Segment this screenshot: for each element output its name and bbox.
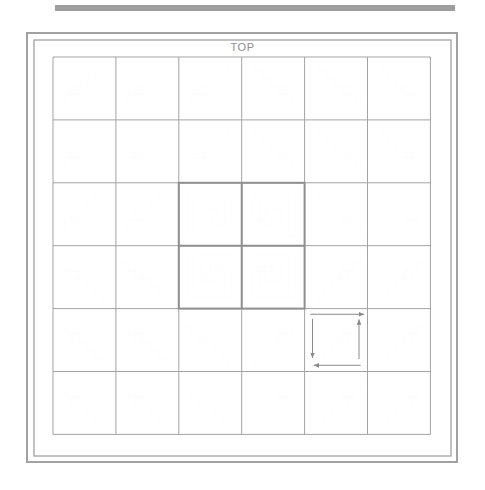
- center-spiral-tile: [188, 194, 231, 236]
- staircase-tile-path: [381, 389, 424, 428]
- staircase-tile-path: [122, 126, 165, 165]
- staircase-tile: [318, 189, 361, 228]
- staircase-tile: [185, 63, 228, 102]
- staircase-tile: [59, 189, 102, 228]
- staircase-tile: [381, 126, 424, 165]
- staircase-tile-path: [59, 126, 102, 165]
- staircase-tile: [59, 326, 102, 365]
- staircase-tile: [122, 263, 165, 302]
- staircase-tile: [59, 389, 102, 428]
- diagram-canvas: TOP: [0, 0, 485, 490]
- staircase-tile-path: [185, 63, 228, 102]
- staircase-tile-path: [318, 263, 361, 302]
- staircase-tile-path: [122, 63, 165, 102]
- staircase-tile-path: [318, 126, 361, 165]
- staircase-tile: [255, 126, 298, 165]
- staircase-tile: [381, 389, 424, 428]
- top-label: TOP: [0, 41, 485, 53]
- staircase-tile: [59, 126, 102, 165]
- staircase-tile: [318, 126, 361, 165]
- staircase-tile: [185, 326, 228, 365]
- staircase-tile: [255, 63, 298, 102]
- center-spiral-tile-path: [188, 255, 231, 297]
- staircase-tile-path: [59, 326, 102, 365]
- staircase-tile: [185, 389, 228, 428]
- center-spiral-tile: [188, 255, 231, 297]
- staircase-tile-path: [122, 189, 165, 228]
- staircase-tile: [59, 263, 102, 302]
- staircase-tile: [318, 63, 361, 102]
- staircase-tile: [318, 326, 361, 365]
- staircase-tile: [381, 63, 424, 102]
- center-spiral-tile-path: [252, 194, 295, 236]
- staircase-tile-path: [318, 63, 361, 102]
- staircase-tile-path: [59, 189, 102, 228]
- staircase-tile-path: [59, 389, 102, 428]
- staircase-tile: [381, 189, 424, 228]
- staircase-tile-path: [122, 263, 165, 302]
- staircase-tile: [255, 326, 298, 365]
- staircase-tile: [255, 389, 298, 428]
- staircase-tile-path: [59, 263, 102, 302]
- staircase-tile: [122, 126, 165, 165]
- staircase-tile-path: [255, 326, 298, 365]
- staircase-tile: [381, 326, 424, 365]
- staircase-tile-path: [122, 389, 165, 428]
- center-spiral-tile-path: [252, 255, 295, 297]
- staircase-tile-path: [381, 63, 424, 102]
- center-spiral-tile: [252, 194, 295, 236]
- staircase-tile: [122, 189, 165, 228]
- staircase-tile-path: [381, 189, 424, 228]
- staircase-tile: [59, 63, 102, 102]
- staircase-tile: [122, 389, 165, 428]
- staircase-tile-path: [381, 263, 424, 302]
- staircase-tile-path: [255, 389, 298, 428]
- staircase-tile: [122, 326, 165, 365]
- staircase-tile-path: [59, 63, 102, 102]
- staircase-tile-path: [255, 126, 298, 165]
- staircase-tile-path: [185, 389, 228, 428]
- staircase-tile: [185, 126, 228, 165]
- staircase-tile: [122, 63, 165, 102]
- quilt-pattern-svg: [0, 0, 485, 490]
- staircase-tile-path: [318, 389, 361, 428]
- staircase-tile: [318, 389, 361, 428]
- staircase-tile: [381, 263, 424, 302]
- staircase-tile: [318, 263, 361, 302]
- staircase-tile-path: [318, 326, 361, 365]
- center-spiral-tile-path: [188, 194, 231, 236]
- top-gray-bar: [55, 5, 455, 11]
- staircase-tile-path: [381, 326, 424, 365]
- staircase-tile-path: [185, 326, 228, 365]
- staircase-tile-path: [381, 126, 424, 165]
- staircase-tile-path: [318, 189, 361, 228]
- center-spiral-tile: [252, 255, 295, 297]
- staircase-tile-path: [122, 326, 165, 365]
- flow-arrows: [310, 314, 364, 365]
- staircase-tile-path: [185, 126, 228, 165]
- staircase-tile-path: [255, 63, 298, 102]
